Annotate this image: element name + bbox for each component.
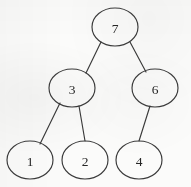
tree-node-7: 7 <box>92 8 138 46</box>
tree-node-6: 6 <box>132 69 178 107</box>
node-label-2: 2 <box>82 154 89 169</box>
edge-3-to-2 <box>79 106 85 141</box>
tree-node-4: 4 <box>116 141 162 179</box>
node-label-7: 7 <box>112 21 119 36</box>
node-label-6: 6 <box>152 82 159 97</box>
edge-7-to-3 <box>86 42 101 73</box>
tree-node-1: 1 <box>7 141 53 179</box>
binary-tree-graphic: 7 3 6 1 2 4 <box>0 0 191 187</box>
tree-edges <box>40 42 150 144</box>
edge-7-to-6 <box>130 42 146 72</box>
node-label-3: 3 <box>69 82 76 97</box>
edge-6-to-4 <box>139 106 150 141</box>
node-label-1: 1 <box>27 154 34 169</box>
edge-3-to-1 <box>40 103 60 144</box>
tree-node-2: 2 <box>62 141 108 179</box>
node-label-4: 4 <box>136 154 143 169</box>
tree-diagram-canvas: 7 3 6 1 2 4 <box>0 0 191 187</box>
tree-node-3: 3 <box>49 69 95 107</box>
